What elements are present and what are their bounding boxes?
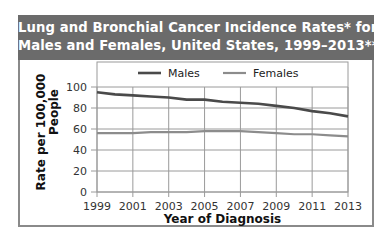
y-axis-label-line-1: Rate per 100,000 (34, 74, 48, 191)
x-tick-label: 2013 (334, 200, 362, 213)
y-tick-label: 80 (73, 102, 87, 115)
y-tick-label: 0 (80, 186, 87, 199)
y-tick-label: 60 (73, 123, 87, 136)
plot-area (97, 62, 348, 192)
legend-label-males: Males (168, 67, 200, 80)
y-tick-label: 40 (73, 144, 87, 157)
x-tick-label: 2011 (298, 200, 326, 213)
legend-label-females: Females (253, 67, 299, 80)
x-axis-label: Year of Diagnosis (163, 212, 282, 226)
line-chart: 0204060801001999200120032005200720092011… (0, 0, 389, 248)
y-tick-label: 100 (66, 81, 87, 94)
x-tick-label: 1999 (83, 200, 111, 213)
series-line-males (97, 92, 348, 116)
series-line-females (97, 131, 348, 136)
x-tick-label: 2001 (119, 200, 147, 213)
y-axis-label-line-2: People (47, 89, 61, 135)
y-tick-label: 20 (73, 165, 87, 178)
